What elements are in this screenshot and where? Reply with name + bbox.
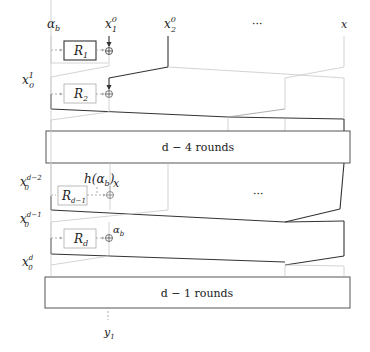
label-x-top: x	[341, 18, 348, 31]
label-x0-d-2: xd−20	[20, 174, 42, 192]
rounds-box-d-4: d − 4 rounds	[46, 131, 350, 163]
label-ellipsis-top: ···	[252, 18, 263, 31]
label-y1: y1	[103, 326, 115, 341]
label-h-alpha-b: h(αb)	[84, 172, 115, 188]
output: y1	[103, 311, 115, 341]
label-x2-0: x02	[164, 15, 176, 34]
label-x0-d: xd0	[22, 254, 34, 272]
label-x0-d-1: xd−10	[20, 211, 42, 229]
label-x-xor: x	[113, 177, 120, 190]
round-d-1: xd−20 h(αb) x Rd−1 ···	[20, 163, 344, 222]
label-alpha-b-xor: αb	[113, 224, 125, 238]
round-2: x10 R2	[22, 71, 344, 131]
rounds-box-d-1: d − 1 rounds	[45, 277, 350, 308]
round-1: R1	[51, 36, 344, 89]
label-alpha-b: αb	[47, 17, 60, 33]
label-x0-1: x10	[22, 71, 34, 90]
top-labels: αb x01 x02 ··· x	[47, 15, 348, 34]
label-x1-0: x01	[105, 15, 117, 34]
rounds-d-1-label: d − 1 rounds	[161, 287, 234, 300]
ellipsis-mid: ···	[253, 188, 264, 201]
rounds-d-4-label: d − 4 rounds	[162, 141, 235, 154]
feistel-diagram: αb x01 x02 ··· x R1 x10	[0, 0, 370, 352]
